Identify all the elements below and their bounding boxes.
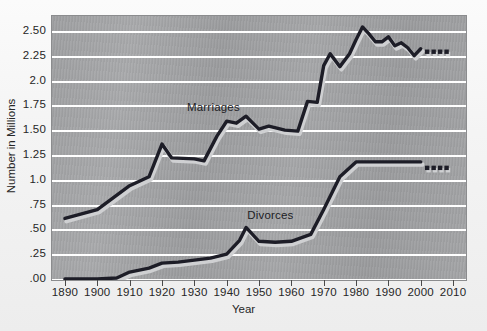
- series-label-divorces: Divorces: [247, 209, 293, 221]
- y-tick-label: 1.50: [4, 123, 46, 135]
- projection-marker: [438, 166, 442, 170]
- y-tick-label: .75: [4, 198, 46, 210]
- projection-marker: [444, 50, 448, 54]
- plot-area: Marriages Divorces: [52, 16, 466, 280]
- y-tick-label: 1.75: [4, 98, 46, 110]
- projection-marker: [431, 50, 435, 54]
- projection-marker: [425, 166, 429, 170]
- y-tick-label: 2.50: [4, 24, 46, 36]
- projection-markers: [425, 50, 450, 173]
- projection-marker: [438, 50, 442, 54]
- figure-canvas: Number in Millions 2.502.252.01.751.501.…: [0, 0, 487, 331]
- series-label-marriages: Marriages: [187, 101, 240, 113]
- y-tick-label: 2.0: [4, 74, 46, 86]
- y-tick-label: 1.25: [4, 148, 46, 160]
- line-shadows: [67, 30, 423, 280]
- series-shadow: [67, 164, 423, 280]
- x-axis-title: Year: [0, 303, 487, 315]
- y-tick-label: .50: [4, 222, 46, 234]
- series-line: [65, 162, 421, 279]
- y-tick-label: 1.0: [4, 173, 46, 185]
- y-tick-label: .00: [4, 272, 46, 284]
- y-tick-label: 2.25: [4, 49, 46, 61]
- projection-marker: [431, 166, 435, 170]
- projection-marker: [444, 166, 448, 170]
- x-tick-label: 2010: [431, 286, 475, 298]
- series-lines: [52, 16, 466, 280]
- y-tick-label: .25: [4, 247, 46, 259]
- projection-marker: [425, 50, 429, 54]
